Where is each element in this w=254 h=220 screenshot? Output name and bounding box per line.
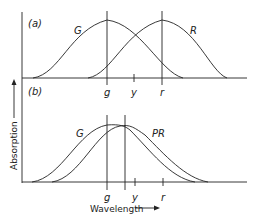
curve-a-R xyxy=(88,20,227,78)
curve-b-G xyxy=(32,125,195,182)
curve-a-G xyxy=(33,20,183,78)
tick-b-g-label: g xyxy=(104,192,110,203)
curve-a-R-label: R xyxy=(190,25,197,36)
curve-b-PR-label: PR xyxy=(152,128,165,139)
tick-a-r-label: r xyxy=(160,87,165,98)
panel-a-label: (a) xyxy=(28,18,42,29)
absorption-chart: (a) (b) G R G PR g y r g y r Wavelength … xyxy=(0,0,254,220)
curve-b-G-label: G xyxy=(76,128,84,139)
tick-b-r-label: r xyxy=(161,192,166,203)
tick-a-g-label: g xyxy=(104,87,110,98)
tick-a-y-label: y xyxy=(130,87,138,98)
y-axis-label: Absorption xyxy=(9,121,19,170)
curve-a-G-label: G xyxy=(74,25,82,36)
x-axis-label: Wavelength xyxy=(90,204,143,214)
tick-b-y-label: y xyxy=(131,192,139,203)
ylabel-arrowhead-icon xyxy=(12,79,17,85)
xlabel-arrowhead-icon xyxy=(154,206,160,211)
panel-b-label: (b) xyxy=(28,86,42,97)
